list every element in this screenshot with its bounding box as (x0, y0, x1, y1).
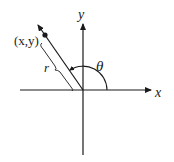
polar-diagram: y x (x,y) r θ (0, 0, 174, 162)
x-axis-label: x (154, 85, 162, 100)
angle-label: θ (96, 58, 104, 74)
point-label: (x,y) (14, 33, 39, 48)
radius-label: r (44, 60, 50, 75)
point-marker (42, 32, 47, 37)
y-axis-label: y (76, 7, 85, 22)
